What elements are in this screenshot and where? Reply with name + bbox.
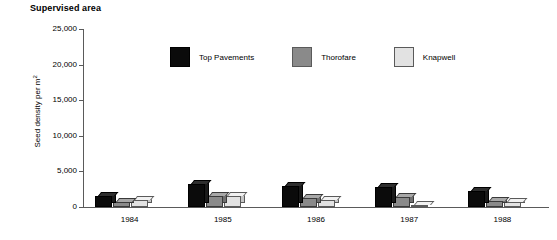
y-axis-tick-mark	[79, 100, 84, 101]
y-axis-label: Seed density per m2	[32, 41, 43, 181]
y-axis-label-text: Seed density per m	[33, 79, 42, 148]
y-axis-tick-label: 25,000	[53, 24, 77, 33]
bar-front-face	[411, 205, 428, 207]
y-axis-tick-label: 0	[73, 202, 77, 211]
bar-front-face	[375, 187, 392, 207]
plot-area: 05,00010,00015,00020,00025,000 198419851…	[83, 29, 549, 207]
bar-1986-top-pavements	[282, 186, 299, 207]
bar-1985-top-pavements	[188, 184, 205, 207]
x-axis-line	[83, 207, 549, 208]
y-axis-tick: 20,000	[83, 65, 84, 66]
page-title: Supervised area	[30, 3, 101, 13]
y-axis-line	[83, 29, 84, 207]
bar-group	[282, 29, 339, 207]
y-axis-tick-mark	[79, 207, 84, 208]
bar-group	[468, 29, 525, 207]
y-axis-tick-label: 10,000	[53, 131, 77, 140]
y-axis-label-exponent: 2	[32, 75, 38, 78]
x-axis-tick-label: 1985	[193, 215, 253, 224]
y-axis-tick-mark	[79, 65, 84, 66]
y-axis-tick-label: 20,000	[53, 60, 77, 69]
bar-1987-knapwell	[411, 205, 428, 207]
bar-group	[188, 29, 245, 207]
y-axis-tick: 15,000	[83, 100, 84, 101]
x-axis-tick-label: 1988	[472, 215, 532, 224]
y-axis-tick-label: 5,000	[57, 166, 77, 175]
y-axis-tick: 25,000	[83, 29, 84, 30]
x-axis-tick-label: 1984	[100, 215, 160, 224]
y-axis-tick: 5,000	[83, 171, 84, 172]
bar-1988-top-pavements	[468, 191, 485, 207]
bar-front-face	[468, 191, 485, 207]
bar-group	[95, 29, 152, 207]
x-axis-tick-label: 1987	[379, 215, 439, 224]
y-axis-tick-mark	[79, 29, 84, 30]
chart-screenshot: Supervised area Seed density per m2 Top …	[0, 0, 557, 240]
bar-front-face	[282, 186, 299, 207]
y-axis-tick-mark	[79, 136, 84, 137]
x-axis-tick-label: 1986	[286, 215, 346, 224]
bar-1987-top-pavements	[375, 187, 392, 207]
bar-front-face	[188, 184, 205, 207]
y-axis-tick: 0	[83, 207, 84, 208]
bar-1984-top-pavements	[95, 196, 112, 207]
bar-group	[375, 29, 432, 207]
y-axis-tick-mark	[79, 171, 84, 172]
bar-front-face	[95, 196, 112, 207]
y-axis-tick-label: 15,000	[53, 95, 77, 104]
y-axis-tick: 10,000	[83, 136, 84, 137]
